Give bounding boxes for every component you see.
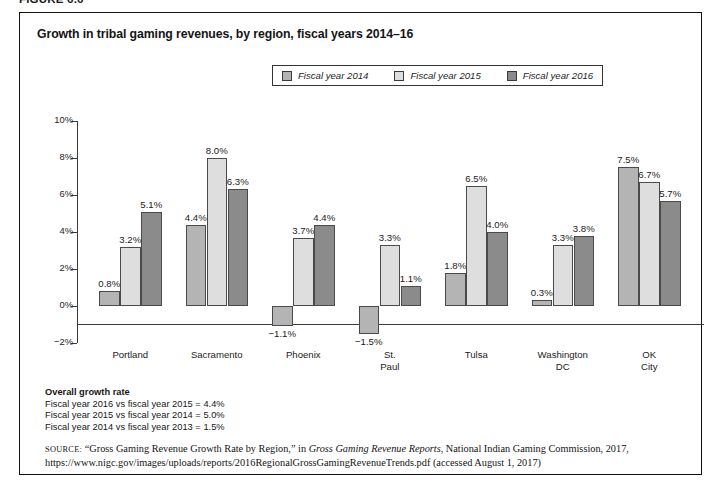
bar-ok-city-fiscal-year-2014[interactable]: [618, 167, 639, 306]
plot-area: 10%8%6%4%2%0%−2% 0.8%3.2%5.1%4.4%8.0%6.3…: [77, 121, 704, 343]
bar-value-label: 3.3%: [369, 232, 412, 243]
y-tick-label: 0%: [59, 299, 73, 310]
overall-growth-note: Overall growth rate Fiscal year 2016 vs …: [45, 387, 225, 433]
figure-page: FIGURE 6.6 Growth in tribal gaming reven…: [0, 0, 718, 491]
y-tick-label: 8%: [59, 151, 73, 162]
bar-value-label: 5.7%: [649, 188, 692, 199]
bar-group: −1.5%3.3%1.1%: [359, 121, 422, 343]
bar-value-label: 4.0%: [476, 219, 519, 230]
bar-washington-dc-fiscal-year-2015[interactable]: [553, 245, 574, 306]
bar-value-label: 6.3%: [217, 176, 260, 187]
bar-group: −1.1%3.7%4.4%: [272, 121, 335, 343]
bar-value-label: 7.5%: [607, 154, 650, 165]
bar-ok-city-fiscal-year-2016[interactable]: [660, 201, 681, 306]
bar-ok-city-fiscal-year-2015[interactable]: [639, 182, 660, 306]
bar-tulsa-fiscal-year-2015[interactable]: [466, 186, 487, 306]
source-url[interactable]: https://www.nigc.gov/images/uploads/repo…: [45, 456, 685, 469]
source-prefix: SOURCE:: [45, 445, 82, 454]
legend-label-fy2016: Fiscal year 2016: [523, 70, 593, 81]
legend-swatch-fy2015: [394, 71, 404, 81]
bar-group: 7.5%6.7%5.7%: [618, 121, 681, 343]
bar-value-label: 3.8%: [563, 223, 606, 234]
bar-st-paul-fiscal-year-2014[interactable]: [359, 306, 380, 334]
bar-phoenix-fiscal-year-2015[interactable]: [293, 238, 314, 306]
category-label-ok-city: OKCity: [596, 349, 703, 372]
bar-value-label: 6.5%: [455, 173, 498, 184]
y-tick-label: −2%: [54, 336, 73, 347]
y-axis-line: [77, 121, 78, 343]
y-tick-label: 6%: [59, 188, 73, 199]
bar-phoenix-fiscal-year-2014[interactable]: [272, 306, 293, 326]
overall-growth-heading: Overall growth rate: [45, 387, 225, 399]
bar-phoenix-fiscal-year-2016[interactable]: [314, 225, 335, 306]
chart-legend: Fiscal year 2014 Fiscal year 2015 Fiscal…: [272, 65, 603, 86]
y-tick-label: 10%: [54, 114, 73, 125]
bar-group: 0.3%3.3%3.8%: [532, 121, 595, 343]
bar-sacramento-fiscal-year-2016[interactable]: [228, 189, 249, 306]
bar-value-label: 4.4%: [303, 212, 346, 223]
bar-value-label: −1.5%: [348, 336, 391, 347]
overall-growth-line-3: Fiscal year 2014 vs fiscal year 2013 = 1…: [45, 422, 225, 434]
bar-st-paul-fiscal-year-2016[interactable]: [401, 286, 422, 306]
legend-item-fy2015: Fiscal year 2015: [394, 70, 480, 81]
bar-tulsa-fiscal-year-2016[interactable]: [487, 232, 508, 306]
bar-value-label: −1.1%: [261, 328, 304, 339]
bar-portland-fiscal-year-2015[interactable]: [120, 247, 141, 306]
bar-tulsa-fiscal-year-2014[interactable]: [445, 273, 466, 306]
legend-item-fy2014: Fiscal year 2014: [282, 70, 368, 81]
legend-item-fy2016: Fiscal year 2016: [507, 70, 593, 81]
bar-group: 0.8%3.2%5.1%: [99, 121, 162, 343]
bar-portland-fiscal-year-2014[interactable]: [99, 291, 120, 306]
figure-number-label: FIGURE 6.6: [19, 0, 84, 5]
bar-value-label: 5.1%: [130, 199, 173, 210]
bar-value-label: 8.0%: [196, 145, 239, 156]
source-italic-title: Gross Gaming Revenue Reports: [309, 443, 441, 454]
legend-label-fy2014: Fiscal year 2014: [298, 70, 368, 81]
overall-growth-line-2: Fiscal year 2015 vs fiscal year 2014 = 5…: [45, 410, 225, 422]
bar-sacramento-fiscal-year-2014[interactable]: [186, 225, 207, 306]
legend-swatch-fy2016: [507, 71, 517, 81]
y-tick-label: 2%: [59, 262, 73, 273]
source-text-2: , National Indian Gaming Commission, 201…: [441, 443, 629, 454]
bar-value-label: 6.7%: [628, 169, 671, 180]
figure-box: Growth in tribal gaming revenues, by reg…: [19, 12, 702, 475]
bar-group: 4.4%8.0%6.3%: [186, 121, 249, 343]
overall-growth-line-1: Fiscal year 2016 vs fiscal year 2015 = 4…: [45, 399, 225, 411]
bar-group: 1.8%6.5%4.0%: [445, 121, 508, 343]
legend-label-fy2015: Fiscal year 2015: [410, 70, 480, 81]
source-text-1: “Gross Gaming Revenue Growth Rate by Reg…: [82, 443, 309, 454]
bar-washington-dc-fiscal-year-2014[interactable]: [532, 300, 553, 306]
y-tick-label: 4%: [59, 225, 73, 236]
source-note: SOURCE: “Gross Gaming Revenue Growth Rat…: [45, 442, 685, 469]
bar-portland-fiscal-year-2016[interactable]: [141, 212, 162, 306]
bar-washington-dc-fiscal-year-2016[interactable]: [574, 236, 595, 306]
legend-swatch-fy2014: [282, 71, 292, 81]
chart-title: Growth in tribal gaming revenues, by reg…: [37, 27, 413, 41]
bar-value-label: 1.1%: [390, 273, 433, 284]
